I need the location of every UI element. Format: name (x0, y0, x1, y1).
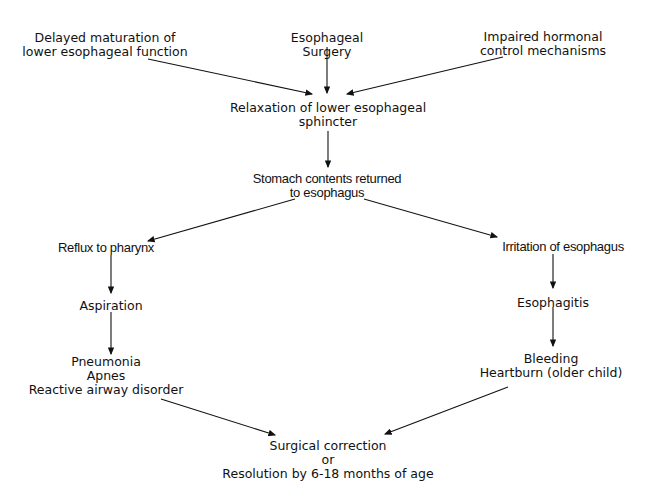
node-reflux-pharynx: Reflux to pharynx (58, 241, 154, 255)
edge-stomach-reflux (148, 199, 295, 241)
edge-hormonal-relaxation (347, 57, 503, 94)
node-irritation-esophagus: Irritation of esophagus (502, 240, 624, 254)
node-delayed-maturation: Delayed maturation of lower esophageal f… (22, 31, 187, 59)
edge-delayed-relaxation (148, 59, 312, 94)
node-bleeding-heartburn: Bleeding Heartburn (older child) (480, 352, 623, 380)
edge-stomach-irritation (364, 199, 497, 237)
node-outcome: Surgical correction or Resolution by 6-1… (222, 439, 433, 481)
node-impaired-hormonal: Impaired hormonal control mechanisms (480, 30, 606, 58)
node-relaxation-sphincter: Relaxation of lower esophageal sphincter (230, 101, 426, 129)
edge-bleeding-outcome (385, 387, 508, 434)
node-esophageal-surgery: Esophageal Surgery (291, 31, 363, 59)
edge-pneumonia-outcome (161, 399, 275, 435)
node-pneumonia-apnes: Pneumonia Apnes Reactive airway disorder (29, 355, 184, 397)
node-aspiration: Aspiration (79, 299, 142, 313)
node-esophagitis: Esophagitis (517, 296, 589, 310)
node-stomach-contents: Stomach contents returned to esophagus (253, 172, 402, 200)
